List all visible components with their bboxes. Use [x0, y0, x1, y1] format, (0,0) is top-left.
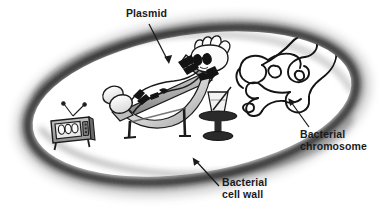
- label-bacterial-chromosome: Bacterialchromosome: [300, 129, 367, 152]
- chair-leg-right: [184, 108, 185, 136]
- label-cellwall-line2: cell wall: [222, 188, 263, 200]
- label-bacterial-cell-wall: Bacterialcell wall: [222, 177, 267, 200]
- bacterial-cell-illustration: [0, 0, 384, 216]
- table-base: [203, 132, 233, 141]
- chair-leg-left: [129, 121, 130, 138]
- label-chromosome-line1: Bacterial: [300, 128, 345, 140]
- diagram-canvas: Plasmid Bacterialchromosome Bacterialcel…: [0, 0, 384, 216]
- label-plasmid: Plasmid: [126, 8, 167, 20]
- label-cellwall-line1: Bacterial: [222, 176, 267, 188]
- label-chromosome-line2: chromosome: [300, 140, 367, 152]
